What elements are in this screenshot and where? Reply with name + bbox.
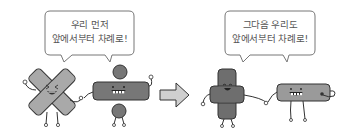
bubble-right-line1: 그다음 우리도 bbox=[225, 18, 315, 32]
multiply-character bbox=[14, 54, 90, 130]
divide-character bbox=[84, 65, 153, 127]
right-arrow-icon bbox=[160, 83, 189, 107]
bubble-left-line2: 앞에서부터 차례로! bbox=[45, 32, 134, 46]
bubble-left-line1: 우리 먼저 bbox=[45, 18, 134, 32]
illustration-scene: 우리 먼저 앞에서부터 차례로! 그다음 우리도 앞에서부터 차례로! bbox=[0, 0, 352, 139]
speech-bubble-left-text: 우리 먼저 앞에서부터 차례로! bbox=[45, 18, 134, 46]
bubble-right-line2: 앞에서부터 차례로! bbox=[225, 32, 315, 46]
speech-bubble-right-text: 그다음 우리도 앞에서부터 차례로! bbox=[225, 18, 315, 46]
minus-character bbox=[268, 84, 335, 122]
plus-character bbox=[201, 69, 268, 128]
